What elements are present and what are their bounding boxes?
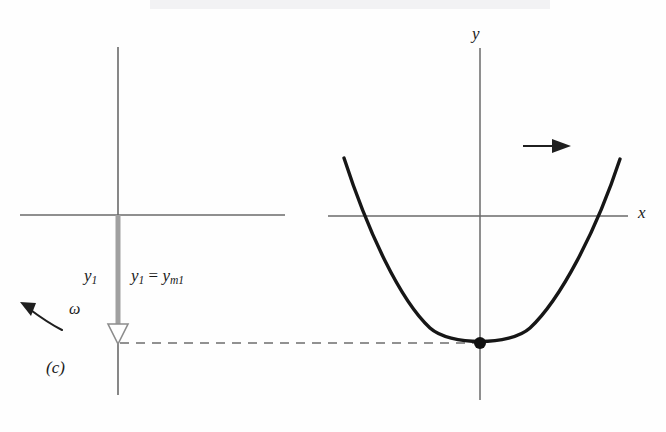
wave-curve [344, 158, 620, 342]
x-axis-label: x [638, 203, 646, 223]
displacement-label-y1: y1 [84, 266, 97, 287]
physics-figure-panel-c: y1 y1 = ym1 ω (c) y x [0, 0, 666, 432]
angular-velocity-label: ω [69, 300, 80, 318]
y-axis-label: y [472, 24, 480, 44]
figure-vector-layer [0, 0, 666, 432]
right-diagram-group [328, 48, 628, 400]
displacement-equation-label: y1 = ym1 [131, 266, 184, 287]
angular-velocity-arrow-icon [20, 302, 62, 330]
motion-direction-arrow-icon [523, 139, 571, 153]
vertex-marker-dot [474, 337, 486, 349]
displacement-arrowhead-icon [108, 324, 128, 344]
panel-label: (c) [46, 358, 65, 378]
